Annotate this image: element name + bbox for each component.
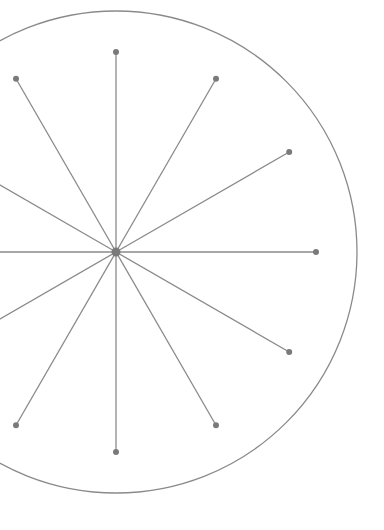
radial-spoke-diagram bbox=[0, 0, 384, 530]
spoke-endpoint-dot bbox=[13, 422, 19, 428]
spoke-endpoint-dot bbox=[313, 249, 319, 255]
spoke-line bbox=[116, 252, 289, 352]
spoke-endpoint-dot bbox=[213, 422, 219, 428]
spoke-line bbox=[0, 152, 116, 252]
spoke-endpoint-dot bbox=[286, 149, 292, 155]
spoke-line bbox=[116, 79, 216, 252]
spokes-group bbox=[0, 52, 316, 452]
spoke-line bbox=[16, 252, 116, 425]
spoke-line bbox=[16, 79, 116, 252]
spoke-endpoint-dot bbox=[213, 76, 219, 82]
spoke-endpoint-dot bbox=[13, 76, 19, 82]
spoke-line bbox=[116, 152, 289, 252]
spoke-line bbox=[0, 252, 116, 352]
center-hub-dot bbox=[112, 248, 121, 257]
spoke-endpoint-dot bbox=[113, 449, 119, 455]
spoke-endpoint-dot bbox=[286, 349, 292, 355]
spoke-endpoint-dot bbox=[113, 49, 119, 55]
spoke-line bbox=[116, 252, 216, 425]
